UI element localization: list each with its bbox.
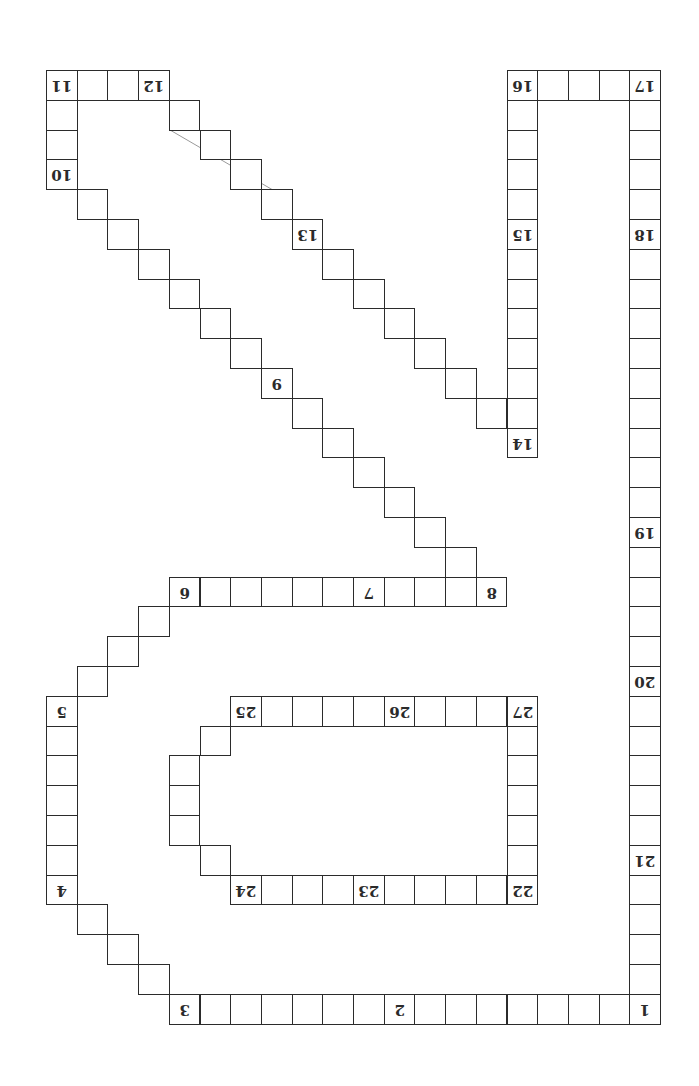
path-space bbox=[169, 279, 201, 310]
path-space bbox=[445, 547, 477, 578]
path-space bbox=[46, 845, 78, 876]
inner_loop-space bbox=[322, 875, 354, 906]
path-space bbox=[507, 308, 539, 339]
space-number: 17 bbox=[630, 71, 660, 100]
path-space bbox=[230, 159, 262, 190]
inner_loop-space bbox=[476, 875, 508, 906]
space-number: 21 bbox=[630, 846, 660, 875]
path-space bbox=[629, 755, 661, 786]
path-space bbox=[322, 994, 354, 1025]
path-space bbox=[138, 606, 170, 637]
path-space bbox=[353, 279, 385, 310]
path-space bbox=[629, 904, 661, 935]
path-space bbox=[261, 577, 293, 608]
space-number: 7 bbox=[354, 578, 384, 607]
space-number: 10 bbox=[47, 160, 77, 189]
path-space bbox=[507, 994, 539, 1025]
path-space bbox=[476, 994, 508, 1025]
path-space bbox=[200, 130, 232, 161]
space-number: 20 bbox=[630, 667, 660, 696]
path-space bbox=[507, 249, 539, 280]
space-number: 14 bbox=[508, 429, 538, 458]
path-space bbox=[414, 577, 446, 608]
path-space bbox=[629, 785, 661, 816]
path-space bbox=[629, 338, 661, 369]
path-space bbox=[230, 577, 262, 608]
path-space bbox=[414, 517, 446, 548]
path-space bbox=[77, 904, 109, 935]
path-space bbox=[107, 636, 139, 667]
inner_loop-space bbox=[414, 875, 446, 906]
inner_loop-space bbox=[445, 875, 477, 906]
path-space bbox=[507, 368, 539, 399]
path-space bbox=[629, 875, 661, 906]
board-space-23: 23 bbox=[353, 875, 385, 906]
path-space bbox=[46, 130, 78, 161]
path-space bbox=[507, 159, 539, 190]
path-space bbox=[322, 249, 354, 280]
inner_loop-space bbox=[200, 726, 232, 757]
space-number: 15 bbox=[508, 220, 538, 249]
space-number: 26 bbox=[385, 697, 415, 726]
path-space bbox=[200, 577, 232, 608]
path-space bbox=[138, 964, 170, 995]
path-space bbox=[629, 368, 661, 399]
inner_loop-space bbox=[261, 875, 293, 906]
path-space bbox=[629, 308, 661, 339]
path-space bbox=[629, 189, 661, 220]
path-space bbox=[507, 338, 539, 369]
path-space bbox=[107, 219, 139, 250]
path-space bbox=[322, 577, 354, 608]
path-space bbox=[629, 606, 661, 637]
path-space bbox=[629, 457, 661, 488]
inner_loop-space bbox=[476, 696, 508, 727]
inner_loop-space bbox=[445, 696, 477, 727]
inner_loop-space bbox=[353, 696, 385, 727]
board-space-25: 25 bbox=[230, 696, 262, 727]
path-space bbox=[507, 130, 539, 161]
space-number: 25 bbox=[231, 697, 261, 726]
path-space bbox=[384, 308, 416, 339]
path-space bbox=[107, 70, 139, 101]
path-space bbox=[445, 994, 477, 1025]
space-number: 27 bbox=[508, 697, 538, 726]
path-space bbox=[77, 189, 109, 220]
board-space-12: 12 bbox=[138, 70, 170, 101]
path-space bbox=[414, 338, 446, 369]
space-number: 9 bbox=[262, 369, 292, 398]
board-space-18: 18 bbox=[629, 219, 661, 250]
board-space-1: 1 bbox=[629, 994, 661, 1025]
path-space bbox=[138, 249, 170, 280]
path-space bbox=[414, 994, 446, 1025]
path-space bbox=[322, 428, 354, 459]
path-space bbox=[507, 100, 539, 131]
board-space-3: 3 bbox=[169, 994, 201, 1025]
path-space bbox=[445, 368, 477, 399]
path-space bbox=[384, 577, 416, 608]
path-space bbox=[261, 189, 293, 220]
path-space bbox=[629, 577, 661, 608]
path-space bbox=[384, 487, 416, 518]
board-space-27: 27 bbox=[507, 696, 539, 727]
space-number: 6 bbox=[170, 578, 200, 607]
path-space bbox=[507, 398, 539, 429]
board-space-15: 15 bbox=[507, 219, 539, 250]
board-space-24: 24 bbox=[230, 875, 262, 906]
board-space-11: 11 bbox=[46, 70, 78, 101]
path-space bbox=[568, 994, 600, 1025]
path-space bbox=[629, 279, 661, 310]
path-space bbox=[629, 815, 661, 846]
path-space bbox=[507, 189, 539, 220]
board-space-5: 5 bbox=[46, 696, 78, 727]
board-space-22: 22 bbox=[507, 875, 539, 906]
board-space-8: 8 bbox=[476, 577, 508, 608]
space-number: 19 bbox=[630, 518, 660, 547]
space-number: 22 bbox=[508, 876, 538, 905]
board-space-26: 26 bbox=[384, 696, 416, 727]
board-space-21: 21 bbox=[629, 845, 661, 876]
board-space-10: 10 bbox=[46, 159, 78, 190]
path-space bbox=[445, 577, 477, 608]
space-number: 12 bbox=[139, 71, 169, 100]
path-space bbox=[77, 666, 109, 697]
path-space bbox=[629, 159, 661, 190]
